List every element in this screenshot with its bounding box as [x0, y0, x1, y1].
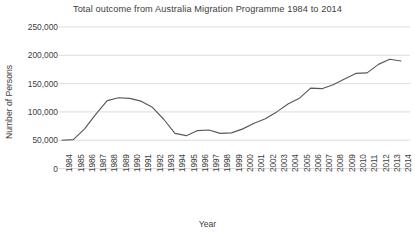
x-tick-label: 1994 — [178, 154, 187, 172]
x-tick-label: 2002 — [269, 154, 278, 172]
x-tick-label: 2004 — [291, 154, 300, 172]
x-tick-label: 2009 — [348, 154, 357, 172]
x-tick-label: 1985 — [77, 154, 86, 172]
x-tick-label: 2000 — [246, 154, 255, 172]
x-tick-label: 2013 — [393, 154, 402, 172]
x-tick-label: 1988 — [110, 154, 119, 172]
x-tick-label: 1997 — [212, 154, 221, 172]
line-chart: Total outcome from Australia Migration P… — [0, 0, 415, 233]
x-tick-label: 2007 — [325, 154, 334, 172]
x-tick-label: 1996 — [201, 154, 210, 172]
x-axis-title: Year — [0, 219, 415, 229]
x-tick-label: 1999 — [235, 154, 244, 172]
x-tick-label: 2003 — [280, 154, 289, 172]
x-tick-label: 2005 — [303, 154, 312, 172]
x-tick-label: 2010 — [359, 154, 368, 172]
x-tick-label: 2012 — [382, 154, 391, 172]
x-tick-label: 2008 — [336, 154, 345, 172]
x-tick-label: 1993 — [167, 154, 176, 172]
x-axis-ticks: 1984198519861987198819891990199119921993… — [0, 0, 415, 233]
x-tick-label: 1998 — [223, 154, 232, 172]
x-tick-label: 2011 — [370, 155, 379, 172]
x-tick-label: 1990 — [133, 154, 142, 172]
x-tick-label: 1995 — [190, 154, 199, 172]
x-tick-label: 2006 — [314, 154, 323, 172]
x-tick-label: 1987 — [99, 154, 108, 172]
x-tick-label: 1984 — [65, 154, 74, 172]
x-tick-label: 2001 — [257, 154, 266, 172]
x-tick-label: 1991 — [144, 154, 153, 172]
x-tick-label: 1986 — [88, 154, 97, 172]
x-tick-label: 2014 — [404, 154, 413, 172]
x-tick-label: 1989 — [122, 154, 131, 172]
x-tick-label: 1992 — [156, 154, 165, 172]
